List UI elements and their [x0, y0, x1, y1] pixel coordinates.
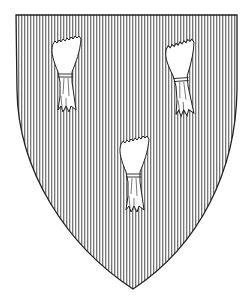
shield-illustration — [0, 0, 250, 304]
